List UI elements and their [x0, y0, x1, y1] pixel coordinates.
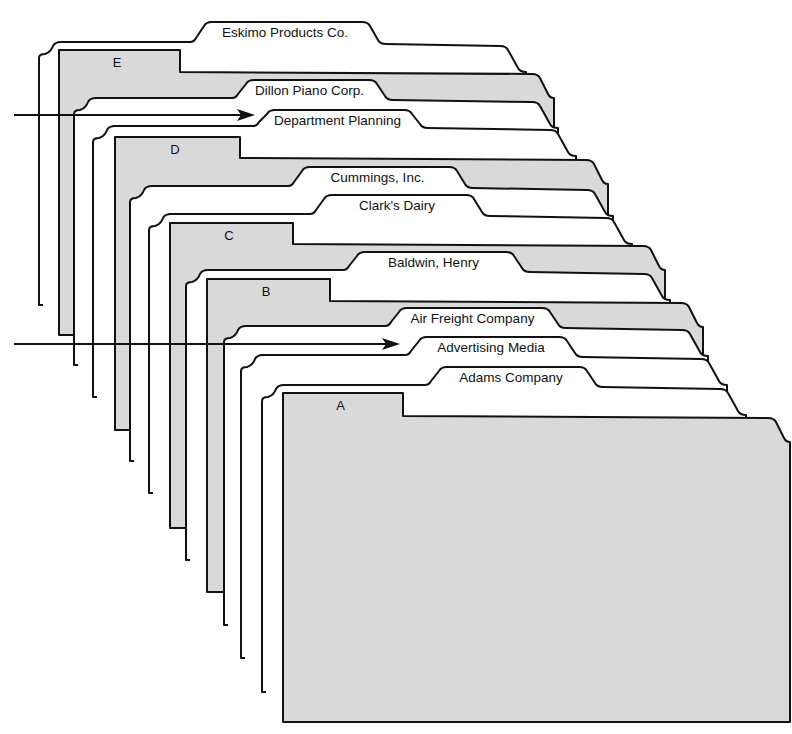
folder-tab-label: Clark's Dairy — [359, 198, 435, 213]
folder-tab-label: Air Freight Company — [411, 311, 535, 326]
filing-diagram: Eskimo Products Co.EDillon Piano Corp.De… — [0, 0, 792, 734]
guide-label: A — [336, 398, 345, 413]
guide-label: D — [170, 142, 179, 157]
guide-label: E — [113, 55, 122, 70]
folder-tab-label: Dillon Piano Corp. — [255, 83, 364, 98]
folder-tab-label: Cummings, Inc. — [331, 170, 425, 185]
guide-card-a: A — [283, 393, 790, 722]
cards-layer: Eskimo Products Co.EDillon Piano Corp.De… — [39, 22, 790, 722]
folder-tab-label: Advertising Media — [437, 340, 545, 355]
guide-outline — [283, 393, 790, 722]
guide-label: B — [262, 284, 271, 299]
folder-tab-label: Adams Company — [459, 370, 563, 385]
folder-tab-label: Eskimo Products Co. — [222, 25, 348, 40]
guide-label: C — [224, 228, 233, 243]
folder-tab-label: Department Planning — [274, 113, 401, 128]
folder-tab-label: Baldwin, Henry — [388, 255, 479, 270]
